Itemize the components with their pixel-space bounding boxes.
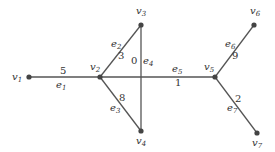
edge-weight-e1: 5 [60,65,66,76]
vertex-v4 [138,128,143,133]
vertex-label-v3: v3 [136,5,147,18]
vertex-label-v5: v5 [204,61,215,74]
vertex-label-v4: v4 [136,135,146,148]
edge-weight-e2: 3 [118,50,124,61]
edge-label-e5: e5 [172,63,183,76]
edge-label-e1: e1 [56,79,66,92]
vertex-v1 [26,74,31,79]
vertex-v5 [212,74,217,79]
edge-e7 [215,77,257,133]
graph-diagram: e15e23e38e40e51e69e72v1v2v3v4v5v6v7 [0,0,275,152]
vertex-label-v7: v7 [252,137,263,150]
edge-weight-e5: 1 [175,77,181,88]
vertex-label-v2: v2 [90,61,101,74]
vertex-v2 [97,74,102,79]
edges-layer [29,25,257,133]
edge-label-e3: e3 [110,102,121,115]
edge-weight-e7: 2 [235,93,241,104]
edge-label-e4: e4 [143,55,153,68]
edge-weight-e4: 0 [131,55,137,66]
vertex-v7 [254,130,259,135]
edge-weight-e6: 9 [232,50,238,61]
vertex-v3 [138,22,143,27]
vertex-label-v1: v1 [12,71,22,84]
edge-e3 [100,77,141,131]
vertex-label-v6: v6 [250,5,261,18]
edge-weight-e3: 8 [119,92,125,103]
vertex-v6 [251,22,256,27]
